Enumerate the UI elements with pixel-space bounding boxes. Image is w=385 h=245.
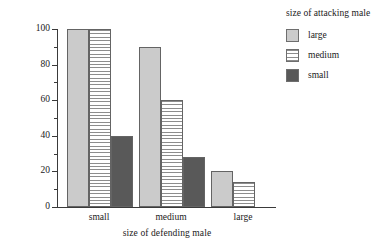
legend-title: size of attacking male	[286, 8, 385, 18]
x-axis-title: size of defending male	[58, 228, 276, 238]
legend-swatch-large-icon	[286, 29, 299, 42]
legend-swatch-small-icon	[286, 69, 299, 82]
bar-groups	[58, 29, 276, 207]
legend-swatch-medium-icon	[286, 49, 299, 62]
bar-medium-small[interactable]	[183, 157, 205, 207]
x-tick-label-large: large	[198, 212, 288, 222]
bar-group-small	[66, 29, 135, 207]
x-axis-line	[57, 207, 276, 208]
legend-item-large[interactable]: large	[286, 25, 385, 45]
bar-medium-large[interactable]	[139, 47, 161, 207]
bar-large-large[interactable]	[211, 171, 233, 207]
bar-chart-figure: probability of persistent attack / % 100…	[0, 0, 385, 245]
bar-group-medium	[138, 29, 207, 207]
legend-label-medium: medium	[308, 50, 339, 60]
legend-item-medium[interactable]: medium	[286, 45, 385, 65]
legend-item-small[interactable]: small	[286, 65, 385, 85]
y-tick-label-0: 0	[6, 202, 50, 212]
y-tick-label-60: 60	[6, 95, 50, 105]
bar-small-large[interactable]	[67, 29, 89, 207]
y-tick-label-40: 40	[6, 131, 50, 141]
y-tick-label-20: 20	[6, 166, 50, 176]
bar-large-medium[interactable]	[233, 182, 255, 207]
bar-medium-medium[interactable]	[161, 100, 183, 207]
legend: size of attacking male large medium smal…	[286, 8, 385, 85]
bar-group-large	[210, 29, 279, 207]
legend-label-small: small	[308, 70, 329, 80]
y-tick-label-80: 80	[6, 60, 50, 70]
legend-label-large: large	[308, 30, 327, 40]
bar-small-small[interactable]	[111, 136, 133, 207]
bar-small-medium[interactable]	[89, 29, 111, 207]
y-tick-label-100: 100	[6, 24, 50, 34]
